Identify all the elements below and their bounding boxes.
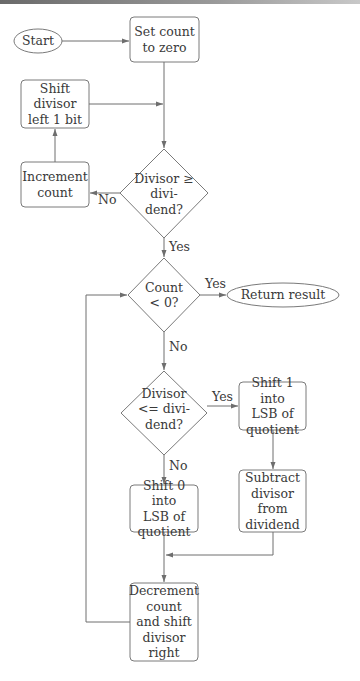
shift1-line-3: quotient (246, 422, 299, 438)
d2-no-label: No (169, 339, 187, 354)
shift-left-label: Shift divisor left 1 bit (21, 80, 89, 128)
d2-yes-label: Yes (205, 276, 226, 291)
decision2-line-1: Count (145, 280, 183, 296)
edge-decrement-d2-loop (86, 295, 130, 622)
set-count-line-1: Set count (134, 24, 195, 40)
subtract-line-3: from (258, 501, 288, 517)
shift0-label: Shift 0 into LSB of quotient (130, 485, 198, 532)
decrement-line-5: right (148, 645, 179, 661)
increment-line-1: Increment (22, 169, 88, 185)
set-count-label: Set count to zero (130, 17, 199, 62)
decrement-label: Decrement count and shift divisor right (130, 583, 198, 661)
subtract-label: Subtract divisor from dividend (239, 470, 306, 532)
shift-left-line-2: divisor (34, 96, 77, 112)
set-count-line-2: to zero (142, 40, 186, 56)
decision3-line-1: Divisor (142, 386, 187, 402)
decision2-label: Count < 0? (130, 278, 198, 312)
decision3-label: Divisor <= divi- dend? (124, 385, 204, 433)
decision1-label: Divisor ≥ divi- dend? (124, 170, 204, 218)
increment-line-2: count (37, 185, 73, 201)
subtract-line-4: dividend (245, 517, 300, 533)
shift0-line-2: LSB of (143, 509, 185, 525)
decision2-line-2: < 0? (149, 295, 178, 311)
increment-label: Increment count (21, 162, 89, 207)
d3-no-label: No (169, 458, 187, 473)
d1-yes-label: Yes (169, 239, 190, 254)
shift1-label: Shift 1 into LSB of quotient (239, 382, 306, 430)
decrement-line-4: divisor (143, 630, 186, 646)
decrement-line-1: Decrement (129, 583, 199, 599)
d1-no-label: No (98, 192, 116, 207)
decrement-line-2: count (146, 599, 182, 615)
decision3-line-2: <= divi- (138, 401, 190, 417)
subtract-line-2: divisor (251, 486, 294, 502)
decision1-line-2: divi- (150, 186, 177, 202)
decision1-line-1: Divisor ≥ (134, 171, 193, 187)
decrement-line-3: and shift (136, 614, 192, 630)
decision3-line-3: dend? (145, 417, 183, 433)
subtract-line-1: Subtract (245, 470, 300, 486)
shift1-line-1: Shift 1 into (239, 375, 306, 406)
shift0-line-3: quotient (137, 524, 190, 540)
start-label: Start (14, 33, 62, 49)
shift1-line-2: LSB of (251, 406, 293, 422)
return-label: Return result (227, 287, 339, 303)
shift-left-line-1: Shift (40, 81, 70, 97)
shift-left-line-3: left 1 bit (28, 112, 82, 128)
d3-yes-label: Yes (212, 389, 233, 404)
decision1-line-3: dend? (145, 202, 183, 218)
shift0-line-1: Shift 0 into (130, 478, 198, 509)
